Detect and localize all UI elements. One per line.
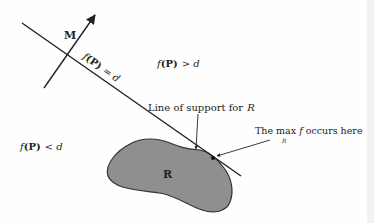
max-caption-pointer xyxy=(217,140,270,156)
max-caption-subscript: R xyxy=(281,137,287,144)
diagram-canvas: M f(P)= d f(P)> d f(P)< d Line of suppor… xyxy=(0,0,374,223)
normal-vector-label: M xyxy=(64,29,76,42)
max-caption: The max f occurs here xyxy=(255,125,363,136)
max-point-marker xyxy=(211,156,215,160)
region-above-label: f(P)> d xyxy=(156,58,200,69)
support-caption-pointer xyxy=(196,114,198,149)
region-below-label: f(P)< d xyxy=(19,141,63,152)
diagram-svg: M f(P)= d f(P)> d f(P)< d Line of suppor… xyxy=(0,0,374,223)
support-line-caption: Line of support forR xyxy=(148,102,255,113)
region-r-label: R xyxy=(163,168,173,181)
